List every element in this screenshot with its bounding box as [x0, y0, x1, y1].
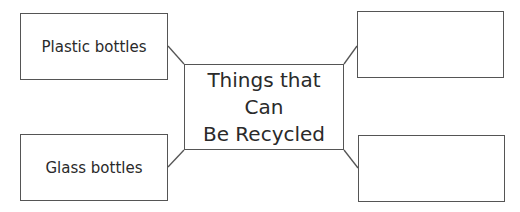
branch-box-bottom-right-empty[interactable]	[358, 135, 505, 202]
branch-box-top-left: Plastic bottles	[20, 13, 168, 80]
connector-top-right	[344, 46, 357, 64]
central-topic-label: Things that Can Be Recycled	[185, 67, 343, 148]
branch-box-bottom-left: Glass bottles	[20, 134, 168, 201]
connector-bottom-left	[168, 150, 184, 167]
branch-box-top-right-empty[interactable]	[357, 11, 504, 78]
connector-top-left	[168, 46, 184, 64]
branch-label-plastic-bottles: Plastic bottles	[42, 38, 147, 56]
central-topic-line-1: Things that Can	[185, 67, 343, 121]
central-topic-line-2: Be Recycled	[185, 121, 343, 148]
connector-bottom-right	[344, 150, 358, 168]
central-topic-box: Things that Can Be Recycled	[184, 64, 344, 150]
branch-label-glass-bottles: Glass bottles	[45, 159, 142, 177]
